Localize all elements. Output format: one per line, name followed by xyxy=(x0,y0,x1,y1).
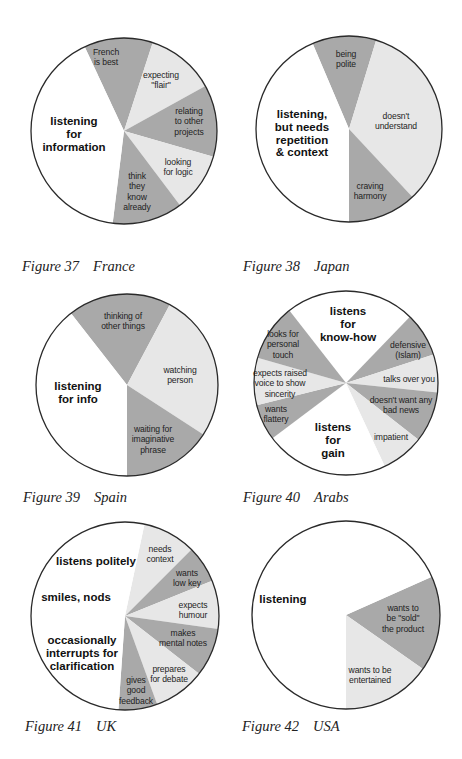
slice-label-wants-to-be: wants to be entertained xyxy=(349,665,392,686)
caption-usa: Figure 42USA xyxy=(242,718,340,735)
figure-page: French is bestexpecting "flair"relating … xyxy=(0,0,462,759)
pie xyxy=(0,0,462,759)
slice-label-listening: listening xyxy=(259,593,306,606)
figure-country: USA xyxy=(313,718,340,734)
slice-label-wants-to: wants to be "sold" the product xyxy=(382,603,424,634)
figure-number: Figure 42 xyxy=(242,718,299,734)
